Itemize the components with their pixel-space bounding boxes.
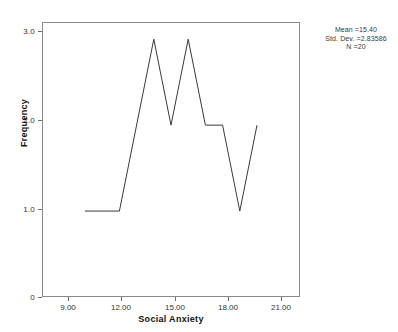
frequency-polygon-chart: 3.0 2.0 1.0 0 Frequency 9.00 12.00	[0, 0, 398, 332]
x-axis-tick-label: 9.00	[48, 303, 88, 312]
y-axis: 3.0 2.0 1.0 0 Frequency	[0, 0, 42, 332]
plot-series-svg	[42, 22, 300, 297]
x-axis-tick: 12.00	[101, 297, 141, 312]
x-axis-tick: 15.00	[155, 297, 195, 312]
stat-mean: Mean =15.40	[318, 26, 394, 35]
y-axis-tick: 1.0	[23, 203, 42, 215]
frequency-line	[85, 39, 257, 211]
x-axis-tick-mark	[68, 297, 69, 301]
x-axis-tick-label: 18.00	[208, 303, 248, 312]
y-axis-title: Frequency	[19, 53, 29, 193]
stat-std-dev: Std. Dev. =2.83586	[318, 35, 394, 44]
x-axis-tick-mark	[281, 297, 282, 301]
x-axis-tick-label: 21.00	[261, 303, 301, 312]
x-axis-tick-mark	[228, 297, 229, 301]
summary-statistics: Mean =15.40 Std. Dev. =2.83586 N =20	[318, 26, 394, 52]
x-axis-tick: 9.00	[48, 297, 88, 312]
y-axis-tick-label: 1.0	[23, 205, 38, 214]
y-axis-tick-label: 3.0	[23, 27, 38, 36]
x-axis-tick-mark	[121, 297, 122, 301]
stat-n: N =20	[318, 43, 394, 52]
x-axis-tick-label: 15.00	[155, 303, 195, 312]
x-axis-tick-label: 12.00	[101, 303, 141, 312]
y-axis-tick: 3.0	[23, 25, 42, 37]
x-axis-tick: 18.00	[208, 297, 248, 312]
x-axis-tick: 21.00	[261, 297, 301, 312]
x-axis-tick-mark	[175, 297, 176, 301]
x-axis-title: Social Anxiety	[42, 314, 300, 324]
